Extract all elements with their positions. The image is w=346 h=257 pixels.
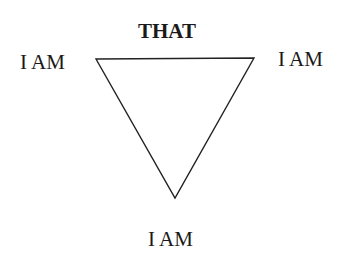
title-that: THAT bbox=[138, 21, 196, 42]
label-bottom: I AM bbox=[148, 229, 193, 250]
inverted-triangle bbox=[96, 58, 254, 198]
label-top-right: I AM bbox=[278, 49, 323, 70]
label-top-left: I AM bbox=[20, 52, 65, 73]
